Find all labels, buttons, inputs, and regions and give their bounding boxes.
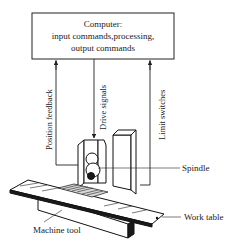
machine-tool-illustration	[10, 130, 164, 238]
computer-box-title: Computer:	[84, 19, 123, 29]
limit-switches-arrow	[140, 60, 150, 185]
position-feedback-signal: Position feedback	[44, 60, 78, 165]
position-feedback-arrow	[56, 60, 78, 165]
column-side	[131, 130, 136, 194]
computer-box: Computer: input commands,processing, out…	[32, 13, 174, 59]
cnc-control-diagram: Computer: input commands,processing, out…	[0, 0, 242, 245]
computer-box-line2: input commands,processing,	[52, 31, 155, 41]
work-table-label: Work table	[184, 212, 224, 222]
position-feedback-label: Position feedback	[44, 89, 54, 150]
spindle-label: Spindle	[182, 163, 210, 173]
computer-box-line3: output commands	[71, 43, 136, 53]
table-hole	[156, 217, 158, 219]
machine-tool-label: Machine tool	[33, 225, 81, 235]
work-table-callout: Work table	[162, 212, 224, 222]
spindle-head	[78, 140, 106, 188]
limit-switches-label: Limit switches	[157, 90, 167, 140]
spindle-tool	[88, 173, 95, 180]
limit-switches-signal: Limit switches	[140, 60, 167, 185]
drive-signals-signal: Drive signals	[94, 59, 108, 138]
spindle-right-upright	[98, 140, 106, 183]
spindle-left-upright	[78, 140, 84, 188]
machine-column	[113, 130, 136, 194]
drive-signals-label: Drive signals	[98, 85, 108, 130]
column-front	[113, 135, 131, 190]
